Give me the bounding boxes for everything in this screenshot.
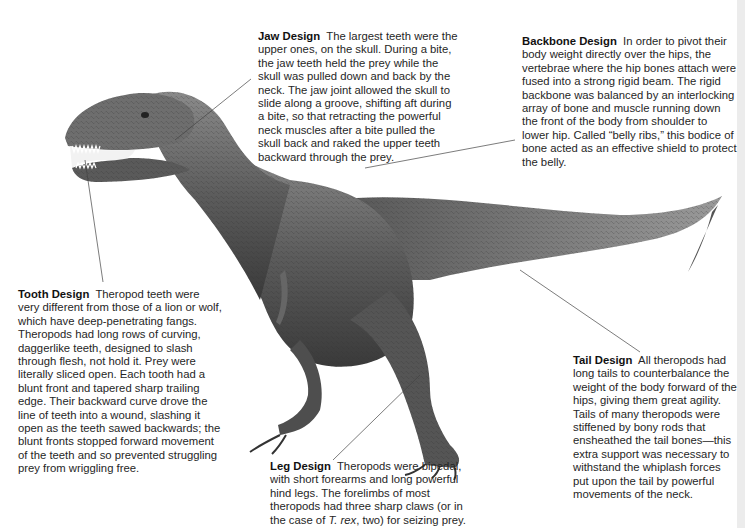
- callout-text: In order to pivot their body weight dire…: [522, 35, 737, 168]
- tail-design-callout: Tail Design All theropods had long tails…: [573, 354, 738, 501]
- callout-title: Jaw Design: [258, 30, 320, 42]
- jaw-design-callout: Jaw Design The largest teeth were the up…: [258, 30, 460, 164]
- callout-title: Leg Design: [270, 460, 331, 472]
- tail-leader-line: [520, 270, 640, 352]
- near-leg: [350, 290, 459, 480]
- callout-text: The largest teeth were the upper ones, o…: [258, 30, 457, 163]
- leg-design-callout: Leg Design Theropods were bipedal, with …: [270, 460, 476, 527]
- callout-title: Tail Design: [573, 354, 632, 366]
- callout-title: Backbone Design: [522, 35, 617, 47]
- head: [65, 93, 194, 182]
- callout-text: Theropod teeth were very different from …: [18, 288, 222, 474]
- far-leg: [250, 340, 322, 454]
- backbone-design-callout: Backbone Design In order to pivot their …: [522, 35, 737, 169]
- callout-title: Tooth Design: [18, 288, 89, 300]
- callout-text: All theropods had long tails to counterb…: [573, 354, 737, 500]
- tooth-design-callout: Tooth Design Theropod teeth were very di…: [18, 288, 223, 476]
- callout-text-end: , two) for seizing prey.: [356, 514, 466, 526]
- leg-leader-line: [333, 375, 420, 460]
- species-name: T. rex: [328, 514, 356, 526]
